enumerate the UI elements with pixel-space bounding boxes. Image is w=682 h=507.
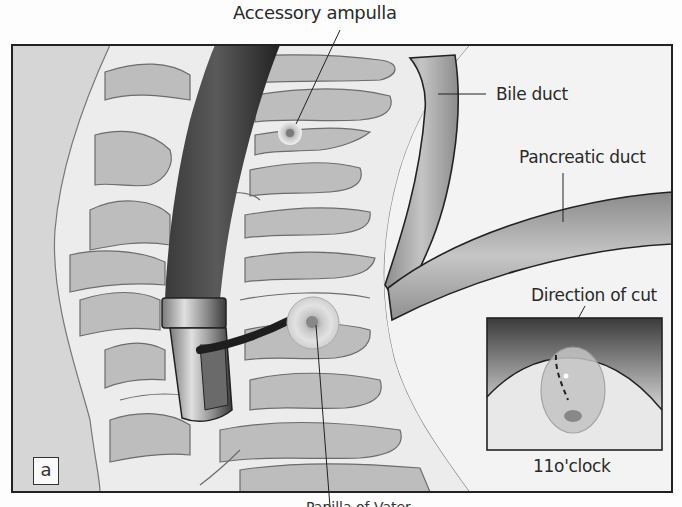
illustration-frame: Accessory ampulla Bile duct Pancreatic d… (0, 0, 682, 507)
inset-papilla-view (487, 318, 662, 450)
panel-label: a (33, 457, 59, 485)
label-major-papilla-cropped: Papilla of Vater (306, 496, 411, 507)
label-clock-position: 11o'clock (533, 456, 611, 476)
label-pancreatic-duct: Pancreatic duct (519, 147, 646, 167)
label-direction-of-cut: Direction of cut (531, 285, 657, 305)
label-accessory-ampulla: Accessory ampulla (233, 2, 397, 23)
endoscopy-diagram (0, 0, 682, 507)
label-bile-duct: Bile duct (496, 84, 568, 104)
